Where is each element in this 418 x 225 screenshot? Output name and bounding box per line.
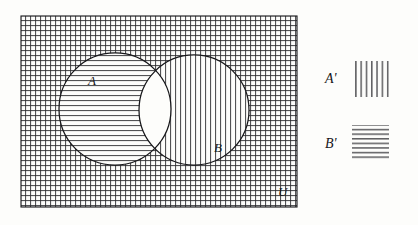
legend-swatch-b-prime: [352, 125, 389, 161]
region-b-only-vertical-hatch: [21, 16, 297, 207]
legend-swatch-a-prime: [352, 61, 389, 97]
set-b-label: B: [214, 140, 222, 155]
universe-region: [21, 16, 297, 207]
venn-diagram-canvas: A B U A' B': [0, 0, 418, 225]
legend-label-a-prime: A': [324, 71, 338, 86]
universe-label: U: [278, 184, 289, 199]
set-a-label: A: [87, 73, 96, 88]
venn-diagram-figure: A B U A' B': [0, 0, 418, 225]
legend-label-b-prime: B': [325, 136, 338, 151]
